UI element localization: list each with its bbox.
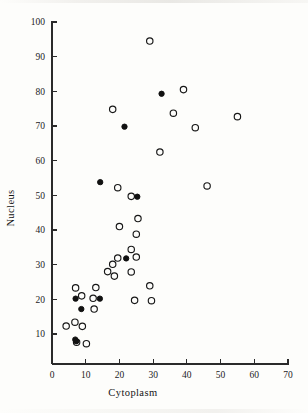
data-point-open-circle [109, 261, 115, 267]
y-tick-label-20: 20 [36, 295, 46, 305]
y-tick-label-70: 70 [36, 121, 46, 131]
data-point-open-circle [79, 323, 85, 329]
y-tick-label-10: 10 [36, 329, 46, 339]
data-point-open-circle [109, 106, 115, 112]
x-axis-title: Cytoplasm [108, 387, 157, 398]
data-point-open-circle [133, 231, 139, 237]
y-axis-tick-labels: 102030405060708090100 [31, 17, 46, 339]
plot-canvas: 102030405060708090100 010203040506070 Cy… [0, 0, 308, 413]
data-point-open-circle [204, 183, 210, 189]
x-tick-label-20: 20 [115, 370, 125, 380]
x-tick-label-30: 30 [148, 370, 158, 380]
x-tick-label-70: 70 [283, 370, 293, 380]
data-point-open-circle [72, 319, 78, 325]
y-tick-label-90: 90 [36, 52, 46, 62]
data-point-open-circle [133, 254, 139, 260]
data-point-open-circle [147, 38, 153, 44]
data-point-open-circle [128, 246, 134, 252]
x-axis-ticks [52, 359, 288, 364]
data-point-open-circle [111, 273, 117, 279]
scatter-plot-figure: 102030405060708090100 010203040506070 Cy… [0, 0, 308, 413]
x-tick-label-40: 40 [182, 370, 192, 380]
x-axis-tick-labels: 010203040506070 [50, 370, 293, 380]
data-point-filled-circle [73, 296, 78, 301]
data-point-open-circle [135, 215, 141, 221]
data-point-filled-circle [74, 339, 79, 344]
x-tick-label-0: 0 [50, 370, 55, 380]
data-point-filled-circle [159, 91, 164, 96]
y-tick-label-80: 80 [36, 87, 46, 97]
data-point-open-circle [147, 283, 153, 289]
data-point-open-circle [63, 323, 69, 329]
data-point-open-circle [131, 297, 137, 303]
data-point-open-circle [116, 223, 122, 229]
data-point-open-circle [115, 185, 121, 191]
data-point-open-circle [104, 268, 110, 274]
data-point-open-circle [128, 269, 134, 275]
data-point-filled-circle [97, 296, 102, 301]
data-point-open-circle [72, 285, 78, 291]
x-tick-label-50: 50 [216, 370, 226, 380]
y-tick-label-100: 100 [31, 17, 46, 27]
data-point-filled-circle [98, 180, 103, 185]
data-point-open-circle [148, 298, 154, 304]
x-tick-label-10: 10 [81, 370, 91, 380]
data-point-open-circle [91, 306, 97, 312]
data-point-open-circle [93, 284, 99, 290]
data-point-open-circle [128, 193, 134, 199]
y-tick-label-30: 30 [36, 260, 46, 270]
data-point-open-circle [234, 113, 240, 119]
y-tick-label-40: 40 [36, 225, 46, 235]
data-point-open-circle [78, 293, 84, 299]
data-point-open-circle [180, 86, 186, 92]
data-point-filled-circle [122, 124, 127, 129]
x-tick-label-60: 60 [250, 370, 260, 380]
y-axis-ticks [52, 22, 57, 334]
data-point-open-circle [115, 255, 121, 261]
y-tick-label-50: 50 [36, 191, 46, 201]
data-point-open-circle [90, 295, 96, 301]
data-point-open-circle [83, 341, 89, 347]
y-axis-title: Nucleus [5, 189, 16, 226]
data-point-open-circle [157, 149, 163, 155]
y-tick-label-60: 60 [36, 156, 46, 166]
data-point-filled-circle [79, 306, 84, 311]
data-point-open-circle [192, 125, 198, 131]
data-point-filled-circle [135, 194, 140, 199]
data-point-open-circle [170, 110, 176, 116]
data-point-group [63, 38, 241, 347]
data-point-filled-circle [124, 256, 129, 261]
axes-group [52, 21, 289, 364]
